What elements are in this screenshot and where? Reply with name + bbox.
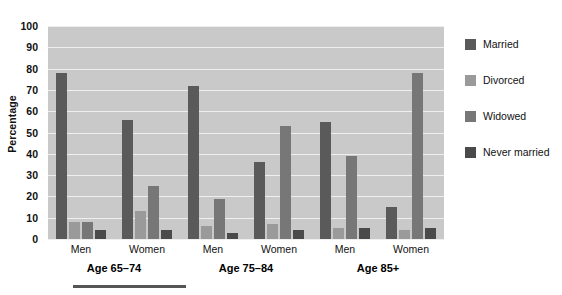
bar: [293, 230, 304, 239]
x-axis-subgroup-labels: MenWomenMenWomenMenWomen: [48, 243, 444, 255]
bar-group: [246, 26, 312, 239]
y-axis-tick-label: 50: [26, 127, 38, 139]
y-axis-tick-label: 40: [26, 148, 38, 160]
legend-item: Married: [465, 26, 560, 62]
bar: [56, 73, 67, 239]
bar: [69, 222, 80, 239]
y-axis-tick-label: 10: [26, 212, 38, 224]
bar: [359, 228, 370, 239]
legend-swatch-icon: [465, 147, 476, 158]
bar: [188, 86, 199, 239]
group-underline-mark: [73, 285, 186, 288]
bar: [346, 156, 357, 239]
y-axis-tick-label: 30: [26, 169, 38, 181]
legend-swatch-icon: [465, 39, 476, 50]
legend-item: Divorced: [465, 62, 560, 98]
y-axis-tick-label: 60: [26, 105, 38, 117]
bar: [333, 228, 344, 239]
bar: [201, 226, 212, 239]
bar: [267, 224, 278, 239]
x-axis-group-label: Age 65–74: [48, 262, 180, 274]
plot-area: [48, 26, 444, 239]
y-axis-tick-label: 0: [32, 233, 38, 245]
bar-chart-figure: Percentage 1009080706050403020100 MenWom…: [0, 0, 562, 295]
x-axis-group-labels: Age 65–74Age 75–84Age 85+: [48, 262, 444, 274]
legend-item: Widowed: [465, 98, 560, 134]
x-axis-subgroup-label: Women: [246, 243, 312, 255]
bar: [254, 162, 265, 239]
x-axis-subgroup-label: Men: [312, 243, 378, 255]
x-axis-subgroup-label: Men: [180, 243, 246, 255]
bar: [135, 211, 146, 239]
bar: [148, 186, 159, 239]
x-axis-group-label: Age 85+: [312, 262, 444, 274]
y-axis-tick-label: 100: [20, 20, 38, 32]
y-axis-tick-label: 70: [26, 84, 38, 96]
legend-item-label: Married: [483, 38, 519, 50]
bar: [82, 222, 93, 239]
x-axis-subgroup-label: Women: [378, 243, 444, 255]
bars-container: [48, 26, 444, 239]
bar: [412, 73, 423, 239]
legend-item: Never married: [465, 134, 560, 170]
legend-item-label: Divorced: [483, 74, 524, 86]
bar: [161, 230, 172, 239]
legend-item-label: Never married: [483, 146, 550, 158]
y-axis-tick-label: 90: [26, 41, 38, 53]
x-axis-subgroup-label: Men: [48, 243, 114, 255]
x-axis-group-label: Age 75–84: [180, 262, 312, 274]
bar: [95, 230, 106, 239]
bar: [320, 122, 331, 239]
legend-swatch-icon: [465, 111, 476, 122]
bar-group: [114, 26, 180, 239]
bar: [425, 228, 436, 239]
bar-group: [48, 26, 114, 239]
gridline: [48, 239, 444, 240]
legend-swatch-icon: [465, 75, 476, 86]
bar-group: [312, 26, 378, 239]
bar-group: [378, 26, 444, 239]
bar: [399, 230, 410, 239]
legend-item-label: Widowed: [483, 110, 526, 122]
y-axis-tick-labels: 1009080706050403020100: [0, 26, 44, 239]
bar: [386, 207, 397, 239]
bar-group: [180, 26, 246, 239]
bar: [280, 126, 291, 239]
y-axis-tick-label: 80: [26, 63, 38, 75]
bar: [214, 199, 225, 239]
bar: [227, 233, 238, 239]
y-axis-tick-label: 20: [26, 190, 38, 202]
chart-legend: MarriedDivorcedWidowedNever married: [465, 26, 560, 170]
x-axis-subgroup-label: Women: [114, 243, 180, 255]
bar: [122, 120, 133, 239]
